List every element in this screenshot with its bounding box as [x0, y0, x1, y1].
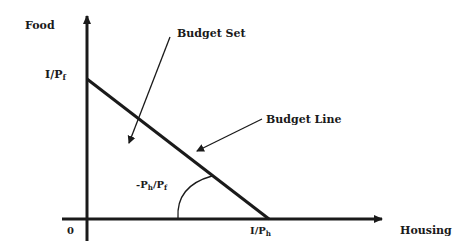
x-intercept-subscript: h [266, 229, 271, 238]
slope-mid: /P [153, 179, 164, 190]
origin-label: 0 [67, 226, 74, 236]
slope-prefix: -P [136, 179, 148, 190]
slope-sub-f: f [164, 183, 167, 192]
slope-angle-arc [178, 176, 212, 218]
budget-set-label: Budget Set [177, 28, 246, 39]
budget-constraint-diagram: Food Housing 0 I/Pf I/Ph -Ph/Pf Budget S… [0, 0, 456, 252]
y-intercept-label: I/Pf [45, 69, 66, 82]
budget-line-arrow [197, 119, 262, 151]
x-intercept-label: I/Ph [250, 226, 271, 237]
x-intercept-text: I/P [250, 225, 266, 236]
y-intercept-text: I/P [45, 68, 62, 81]
budget-line-label: Budget Line [266, 114, 342, 125]
x-axis-label: Housing [400, 225, 452, 236]
y-intercept-subscript: f [62, 73, 65, 82]
y-axis-label: Food [25, 20, 55, 31]
slope-label: -Ph/Pf [136, 180, 167, 191]
budget-line [87, 79, 269, 219]
